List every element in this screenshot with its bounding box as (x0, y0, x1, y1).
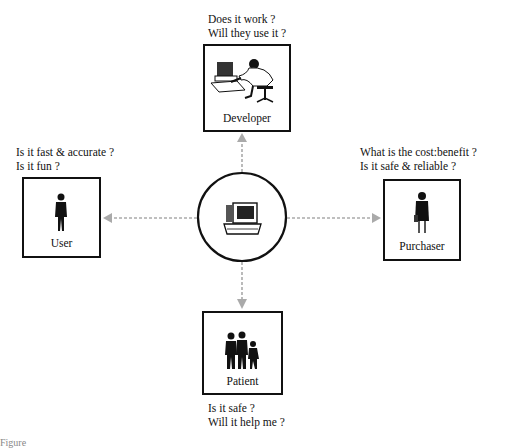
family-icon (223, 331, 263, 371)
developer-label: Developer (205, 112, 289, 124)
patient-question-1: Is it safe ? (208, 401, 285, 415)
businesswoman-icon (410, 191, 434, 235)
patient-box: Patient (202, 311, 283, 395)
arrowhead-right-icon (372, 213, 381, 223)
purchaser-question-2: Is it safe & reliable ? (360, 159, 477, 173)
developer-at-computer-icon (207, 50, 291, 110)
arrowhead-up-icon (237, 133, 247, 142)
purchaser-label: Purchaser (385, 240, 459, 252)
user-box: User (22, 177, 101, 258)
purchaser-questions: What is the cost:benefit ? Is it safe & … (360, 145, 477, 173)
user-question-1: Is it fast & accurate ? (16, 145, 114, 159)
arrowhead-down-icon (237, 299, 247, 309)
person-icon (51, 193, 71, 233)
patient-label: Patient (204, 375, 281, 387)
figure-caption: Figure (0, 437, 26, 448)
developer-question-1: Does it work ? (208, 12, 286, 26)
developer-box: Developer (203, 44, 291, 132)
purchaser-question-1: What is the cost:benefit ? (360, 145, 477, 159)
user-label: User (24, 237, 99, 249)
patient-questions: Is it safe ? Will it help me ? (208, 401, 285, 429)
user-question-2: Is it fun ? (16, 159, 114, 173)
patient-question-2: Will it help me ? (208, 415, 285, 429)
developer-questions: Does it work ? Will they use it ? (208, 12, 286, 40)
user-questions: Is it fast & accurate ? Is it fun ? (16, 145, 114, 173)
purchaser-box: Purchaser (383, 179, 461, 261)
arrowhead-left-icon (103, 213, 112, 223)
developer-question-2: Will they use it ? (208, 26, 286, 40)
computer-icon (224, 203, 261, 234)
